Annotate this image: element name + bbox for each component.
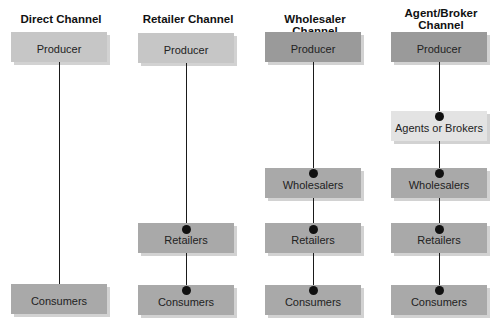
connector-dot [435,112,444,121]
connector-line [59,62,60,287]
direct-channel: Direct Channel Producer Consumers [11,0,121,336]
producer-node: Producer [138,33,234,63]
connector-dot [182,225,191,234]
connector-line [313,62,314,170]
producer-node: Producer [265,32,361,62]
connector-line [313,253,314,287]
producer-node: Producer [11,32,107,62]
connector-dot [182,286,191,295]
connector-dot [309,169,318,178]
connector-line [313,198,314,224]
connector-dot [435,286,444,295]
connector-line [186,63,187,225]
consumers-node: Consumers [11,284,107,314]
channel-title: Direct Channel [11,13,111,25]
retailer-channel: Retailer Channel Producer Retailers Cons… [138,0,248,336]
channel-title: Retailer Channel [138,13,238,25]
connector-dot [309,286,318,295]
connector-line [186,253,187,287]
connector-dot [309,225,318,234]
connector-dot [435,225,444,234]
wholesaler-channel: Wholesaler Channel Producer Wholesalers … [265,0,375,336]
connector-line [439,253,440,287]
agent-broker-channel: Agent/Broker Channel Producer Agents or … [391,0,501,336]
connector-dot [435,169,444,178]
producer-node: Producer [391,32,487,62]
channel-title: Agent/Broker Channel [391,7,491,31]
connector-line [439,198,440,224]
connector-line [439,141,440,171]
connector-line [439,62,440,114]
